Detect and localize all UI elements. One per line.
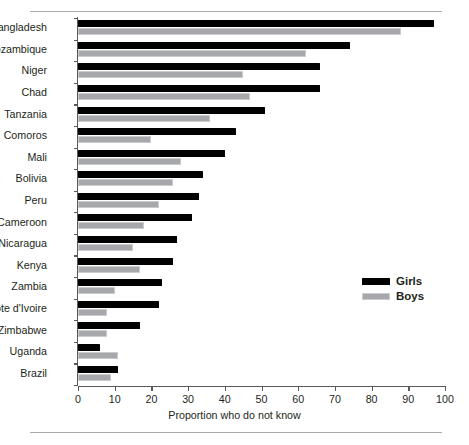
bar-girls bbox=[78, 85, 320, 92]
category-label: Tanzania bbox=[0, 109, 47, 120]
y-axis-tick bbox=[74, 277, 79, 278]
y-axis-tick bbox=[74, 234, 79, 235]
x-axis-tick-label: 100 bbox=[425, 393, 465, 405]
bar-boys bbox=[78, 374, 111, 381]
bar-boys bbox=[78, 93, 250, 100]
bar-girls bbox=[78, 366, 118, 373]
x-axis-tick-label: 80 bbox=[352, 393, 392, 405]
bar-group: Niger bbox=[78, 61, 445, 83]
y-axis-tick bbox=[74, 18, 79, 19]
x-axis-tick-label: 10 bbox=[95, 393, 135, 405]
x-axis-tick bbox=[225, 386, 226, 391]
bar-group: Kenya bbox=[78, 255, 445, 277]
bar-group: Bangladesh bbox=[78, 18, 445, 40]
x-axis-tick bbox=[445, 386, 446, 391]
x-axis-tick bbox=[298, 386, 299, 391]
category-label: Bangladesh bbox=[0, 22, 47, 33]
bar-boys bbox=[78, 309, 107, 316]
bar-girls bbox=[78, 107, 265, 114]
bar-girls bbox=[78, 301, 159, 308]
category-label: Cameroon bbox=[0, 217, 47, 228]
x-axis-tick bbox=[188, 386, 189, 391]
legend-label: Girls bbox=[396, 275, 422, 287]
category-label: Zambia bbox=[0, 281, 47, 292]
x-axis-tick-label: 90 bbox=[388, 393, 428, 405]
bar-boys bbox=[78, 287, 115, 294]
x-axis-tick-label: 50 bbox=[242, 393, 282, 405]
x-axis-tick-label: 40 bbox=[205, 393, 245, 405]
x-axis-tick-label: 0 bbox=[58, 393, 98, 405]
bar-group: Nicaragua bbox=[78, 234, 445, 256]
bar-girls bbox=[78, 63, 320, 70]
bar-girls bbox=[78, 236, 177, 243]
bar-girls bbox=[78, 279, 162, 286]
bar-group: Tanzania bbox=[78, 104, 445, 126]
y-axis-tick bbox=[74, 61, 79, 62]
x-axis-tick bbox=[151, 386, 152, 391]
category-label: Uganda bbox=[0, 346, 47, 357]
bar-boys bbox=[78, 179, 173, 186]
bottom-divider-rule bbox=[30, 432, 442, 433]
legend-swatch-girls bbox=[362, 278, 390, 285]
bar-group: Bolivia bbox=[78, 169, 445, 191]
category-label: Côte d'Ivoire bbox=[0, 303, 47, 314]
bar-boys bbox=[78, 158, 181, 165]
y-axis-tick bbox=[74, 169, 79, 170]
y-axis-tick bbox=[74, 255, 79, 256]
bar-girls bbox=[78, 193, 199, 200]
bar-group: Mozambique bbox=[78, 40, 445, 62]
bar-girls bbox=[78, 128, 236, 135]
y-axis-tick bbox=[74, 342, 79, 343]
bar-group: Brazil bbox=[78, 363, 445, 385]
bar-girls bbox=[78, 20, 434, 27]
bar-girls bbox=[78, 322, 140, 329]
y-axis-tick bbox=[74, 212, 79, 213]
plot-area: BangladeshMozambiqueNigerChadTanzaniaCom… bbox=[78, 18, 445, 385]
bar-chart-figure: BangladeshMozambiqueNigerChadTanzaniaCom… bbox=[0, 0, 469, 445]
category-label: Chad bbox=[0, 87, 47, 98]
bar-boys bbox=[78, 71, 243, 78]
bar-boys bbox=[78, 136, 151, 143]
bar-group: Comoros bbox=[78, 126, 445, 148]
bar-girls bbox=[78, 42, 350, 49]
y-axis-tick bbox=[74, 40, 79, 41]
x-axis-title: Proportion who do not know bbox=[0, 409, 469, 421]
bar-boys bbox=[78, 50, 306, 57]
x-axis-tick-label: 60 bbox=[278, 393, 318, 405]
y-axis-tick bbox=[74, 126, 79, 127]
bar-boys bbox=[78, 201, 159, 208]
y-axis-tick bbox=[74, 320, 79, 321]
x-axis-tick bbox=[78, 386, 79, 391]
bar-girls bbox=[78, 258, 173, 265]
top-divider-rule bbox=[30, 11, 442, 12]
bar-girls bbox=[78, 150, 225, 157]
bar-girls bbox=[78, 171, 203, 178]
bar-girls bbox=[78, 214, 192, 221]
x-axis-tick bbox=[115, 386, 116, 391]
bar-group: Mali bbox=[78, 148, 445, 170]
bar-group: Zimbabwe bbox=[78, 320, 445, 342]
category-label: Nicaragua bbox=[0, 238, 47, 249]
y-axis-tick bbox=[74, 148, 79, 149]
x-axis-tick bbox=[335, 386, 336, 391]
bar-boys bbox=[78, 222, 144, 229]
bar-group: Chad bbox=[78, 83, 445, 105]
y-axis-tick bbox=[74, 363, 79, 364]
bar-boys bbox=[78, 115, 210, 122]
legend-swatch-boys bbox=[362, 293, 390, 300]
category-label: Brazil bbox=[0, 368, 47, 379]
category-label: Mozambique bbox=[0, 44, 47, 55]
x-axis-tick bbox=[372, 386, 373, 391]
y-axis-tick bbox=[74, 83, 79, 84]
category-label: Kenya bbox=[0, 260, 47, 271]
x-axis-tick-label: 20 bbox=[131, 393, 171, 405]
x-axis-tick bbox=[408, 386, 409, 391]
bar-group: Uganda bbox=[78, 342, 445, 364]
bar-boys bbox=[78, 244, 133, 251]
category-label: Bolivia bbox=[0, 173, 47, 184]
y-axis-tick bbox=[74, 191, 79, 192]
bar-boys bbox=[78, 28, 401, 35]
bar-group: Côte d'Ivoire bbox=[78, 299, 445, 321]
x-axis-tick-label: 70 bbox=[315, 393, 355, 405]
bar-boys bbox=[78, 266, 140, 273]
